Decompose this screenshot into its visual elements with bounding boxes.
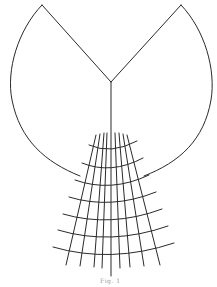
grid-meridians [66, 133, 160, 268]
fan-grid-diagram [0, 0, 217, 287]
left-lobe-arc [10, 5, 80, 176]
right-lobe-arc [144, 5, 212, 176]
v-left-line [42, 5, 111, 82]
grid-parallels [53, 141, 174, 255]
figure-caption: Fig. 1 [100, 277, 121, 284]
v-right-line [111, 5, 181, 82]
